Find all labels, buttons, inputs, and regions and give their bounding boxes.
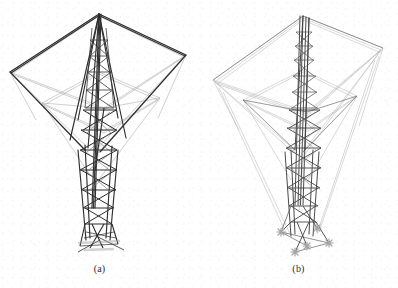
panel-caption-a: (a) — [0, 262, 199, 276]
figure-root: (a) — [0, 0, 398, 288]
panel-caption-b: (b) — [199, 262, 398, 276]
tower-wireframe-b — [199, 0, 398, 262]
tower-wireframe-a — [0, 0, 199, 262]
figure-panel-b: (b) — [199, 0, 398, 288]
figure-panel-a: (a) — [0, 0, 199, 288]
